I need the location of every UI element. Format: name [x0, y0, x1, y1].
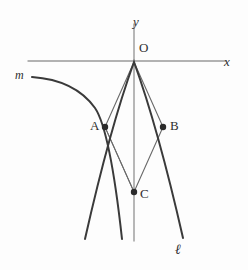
y-axis-label: y	[133, 15, 139, 28]
x-axis-label: x	[224, 55, 230, 68]
curve-m-label: m	[15, 69, 24, 81]
origin-label: O	[139, 41, 148, 54]
point-b-marker	[160, 124, 166, 130]
geometry-figure: y x O A B C m ℓ	[0, 0, 248, 270]
chord-a-to-c-extension	[105, 127, 134, 192]
point-c-marker	[131, 189, 137, 195]
point-b-label: B	[170, 119, 179, 132]
curve-m	[32, 77, 122, 239]
point-a-label: A	[90, 119, 99, 132]
figure-canvas	[0, 0, 248, 270]
curve-l-label: ℓ	[175, 243, 181, 257]
point-a-marker	[102, 124, 108, 130]
point-c-label: C	[140, 187, 149, 200]
